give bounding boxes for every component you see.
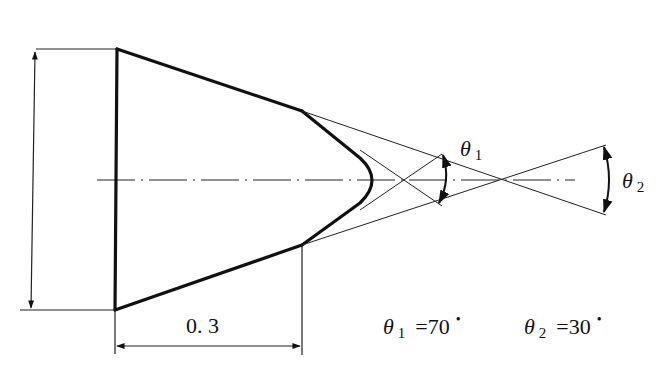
nozzle-diagram: 0. 3 θ1 θ2 θ1=70• θ2=30• bbox=[0, 0, 663, 378]
theta2-construction bbox=[302, 111, 606, 245]
theta1-value-legend: θ1=70• bbox=[383, 312, 461, 341]
theta1-arc bbox=[439, 155, 446, 203]
lower-cone-edge bbox=[115, 245, 302, 310]
theta2-arc bbox=[604, 147, 609, 212]
theta2-label: θ2 bbox=[622, 168, 644, 195]
base-edge bbox=[115, 49, 117, 310]
upper-cone-edge bbox=[117, 49, 302, 111]
theta1-label: θ1 bbox=[460, 136, 482, 163]
length-label: 0. 3 bbox=[186, 313, 219, 338]
theta2-value-legend: θ2=30• bbox=[524, 312, 602, 341]
